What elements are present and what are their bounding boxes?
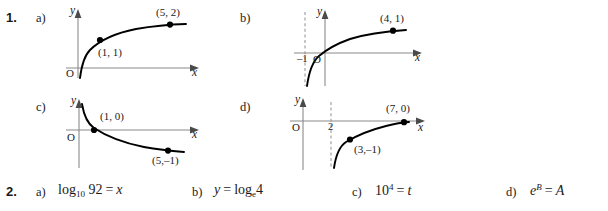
graph-1c-point-label-1: (1, 0): [100, 110, 124, 122]
graph-1d-point-7-0: [401, 119, 407, 125]
graph-1c-x-label: x: [192, 128, 197, 140]
graph-1a-y-arrow: [75, 9, 82, 18]
graph-1b-y-label: y: [317, 5, 322, 17]
graph-1b-curve: [307, 30, 406, 86]
graph-1a-x-label: x: [192, 66, 197, 78]
log-argument-b: 4: [256, 182, 263, 197]
graph-1d-y-label: y: [295, 93, 300, 105]
graph-1d-asymptote-tick: 2: [328, 121, 333, 132]
log-argument-a: 92: [88, 182, 102, 197]
exercise-1-part-a-letter: a): [36, 11, 46, 26]
graph-1b-x-label: x: [415, 51, 420, 63]
graph-1a-point-5-2: [167, 22, 173, 28]
graph-1b-point-4-1: [390, 28, 396, 34]
exp-result-d: A: [556, 183, 565, 198]
exp-base-c: 10: [375, 183, 389, 198]
graph-1a-point-label-2: (5, 2): [156, 6, 180, 18]
graph-1a: y x O (1, 1) (5, 2): [58, 6, 208, 88]
log-result-b: y: [214, 182, 220, 197]
exercise-1-part-b-letter: b): [240, 11, 250, 26]
exercise-1-part-c-letter: c): [36, 100, 46, 115]
graph-1c: y x O (1, 0) (5,–1): [58, 96, 208, 174]
graph-1a-origin-label: O: [66, 67, 74, 79]
exercise-2-equation-a: log10 92=x: [58, 182, 123, 199]
graph-1c-point-1-0: [91, 127, 97, 133]
exercise-2-part-a-letter: a): [36, 185, 46, 200]
graph-1b-point-label-1: (4, 1): [380, 12, 404, 24]
graph-1c-curve: [82, 104, 184, 152]
exercise-2-part-c-letter: c): [352, 185, 362, 200]
exp-exponent-d: B: [536, 182, 542, 192]
graph-1b-origin-label: O: [313, 53, 321, 65]
exercise-2-part-d-letter: d): [506, 185, 516, 200]
log-result-a: x: [116, 182, 122, 197]
exp-exponent-c: 4: [389, 182, 394, 192]
graph-1a-point-label-1: (1, 1): [98, 46, 122, 58]
exercise-2-number: 2.: [6, 184, 17, 199]
graph-1c-point-5-neg1: [165, 148, 171, 154]
exercise-1-number: 1.: [6, 10, 17, 25]
graph-1d: y x O 2 (3,–1) (7, 0): [284, 96, 444, 176]
graph-1b-asymptote-tick: –1: [297, 53, 308, 64]
exercise-2-equation-c: 104=t: [375, 182, 411, 199]
graph-1d-origin-label: O: [292, 121, 300, 133]
worksheet-page: 1. a) y x O (1, 1) (5, 2) b): [0, 0, 608, 211]
graph-1a-curve: [80, 24, 186, 78]
graph-1c-y-label: y: [71, 94, 76, 106]
graph-1a-point-1-1: [97, 37, 103, 43]
graph-1b-y-arrow: [322, 10, 329, 19]
graph-1d-point-label-1: (3,–1): [354, 143, 381, 155]
graph-1d-y-arrow: [300, 98, 307, 107]
log-base-a: 10: [76, 189, 85, 199]
graph-1a-y-label: y: [70, 4, 75, 16]
exercise-2-equation-b: y=loge4: [214, 182, 263, 199]
exp-result-c: t: [407, 183, 411, 198]
graph-1d-x-label: x: [418, 121, 423, 133]
exercise-2-part-b-letter: b): [192, 185, 202, 200]
graph-1c-origin-label: O: [67, 131, 75, 143]
exercise-2-equation-d: eB=A: [530, 182, 564, 199]
graph-1d-point-label-2: (7, 0): [386, 102, 410, 114]
graph-1b: y x O –1 (4, 1): [288, 6, 438, 91]
graph-1d-point-3-neg1: [347, 136, 353, 142]
graph-1c-point-label-2: (5,–1): [152, 154, 179, 166]
exercise-1-part-d-letter: d): [240, 100, 250, 115]
